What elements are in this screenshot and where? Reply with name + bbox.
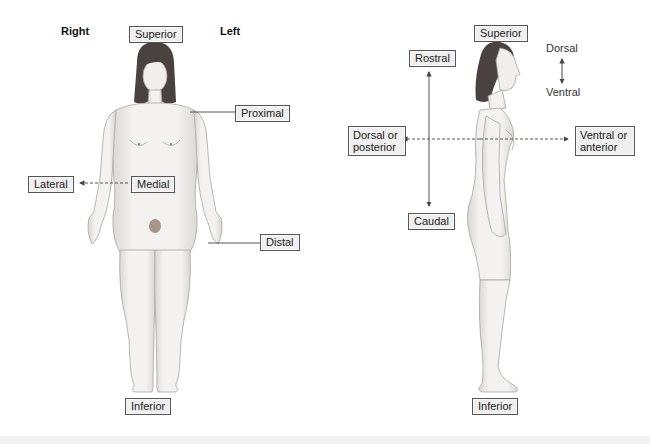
key-dorsal-text: Dorsal (546, 42, 578, 54)
anatomy-illustration (0, 0, 650, 444)
label-dorsal-posterior: Dorsal or posterior (348, 126, 406, 156)
bottom-band (0, 436, 650, 444)
label-superior-lateral: Superior (474, 25, 528, 42)
label-superior-anterior: Superior (129, 26, 183, 43)
label-lateral: Lateral (28, 176, 74, 193)
left-side-label: Left (220, 25, 240, 37)
lateral-figure (467, 42, 520, 392)
label-inferior-anterior: Inferior (125, 398, 171, 415)
label-distal: Distal (260, 234, 300, 251)
label-ventral-anterior: Ventral or anterior (575, 126, 635, 156)
label-inferior-lateral: Inferior (472, 398, 518, 415)
anterior-figure (88, 42, 222, 392)
key-ventral-text: Ventral (546, 86, 580, 98)
label-rostral: Rostral (409, 50, 456, 67)
right-side-label: Right (61, 25, 89, 37)
label-proximal: Proximal (235, 105, 290, 122)
label-caudal: Caudal (408, 213, 455, 230)
label-medial: Medial (131, 176, 175, 193)
